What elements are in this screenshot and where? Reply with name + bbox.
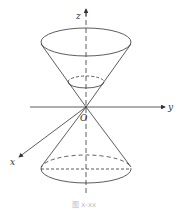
y-axis-label: y [167,102,174,112]
z-axis-label: z [75,11,81,21]
figure-caption: 图 x-xx [72,201,96,209]
origin-label: O [80,113,88,123]
x-axis [19,107,86,157]
double-cone-diagram: z y x O 图 x-xx [0,0,177,212]
x-axis-label: x [10,157,15,167]
